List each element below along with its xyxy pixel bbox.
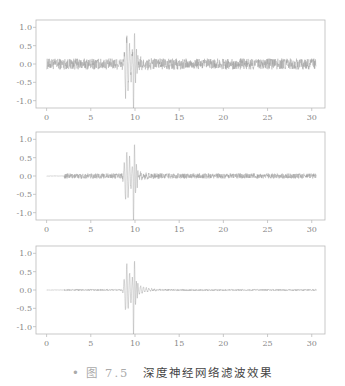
y-tick-label: 1.0 <box>19 135 32 144</box>
figure-number: 图 7.5 <box>86 366 129 380</box>
y-tick-label: 0.0 <box>19 60 32 69</box>
subplot-b: 1.00.50.0-0.5-1.0051015202530b) <box>0 112 345 234</box>
y-tick-label: -1.0 <box>17 209 32 218</box>
waveform-line <box>47 261 317 334</box>
x-tick-label: 25 <box>262 339 272 348</box>
subplot-c: 1.00.50.0-0.5-1.0051015202530c) <box>0 226 345 348</box>
figure-caption: • 图 7.5 深度神经网络滤波效果 <box>0 364 345 380</box>
x-tick-label: 15 <box>174 339 184 348</box>
waveform-line <box>47 145 317 220</box>
x-tick-label: 10 <box>130 339 140 348</box>
y-tick-label: -0.5 <box>17 190 32 199</box>
y-tick-label: 0.5 <box>19 154 32 163</box>
y-tick-label: -0.5 <box>17 304 32 313</box>
subplot-a: 1.00.50.0-0.5-1.0051015202530a) <box>0 0 345 122</box>
y-tick-label: -1.0 <box>17 323 32 332</box>
y-tick-label: 0.5 <box>19 268 32 277</box>
y-tick-label: 0.0 <box>19 286 32 295</box>
caption-bullet: • <box>72 366 81 380</box>
y-tick-label: 0.0 <box>19 172 32 181</box>
y-tick-label: -0.5 <box>17 78 32 87</box>
y-tick-label: 0.5 <box>19 42 32 51</box>
x-tick-label: 5 <box>88 339 93 348</box>
x-tick-label: 20 <box>218 339 228 348</box>
y-tick-label: 1.0 <box>19 249 32 258</box>
caption-text: 深度神经网络滤波效果 <box>143 366 273 380</box>
x-tick-label: 0 <box>44 339 49 348</box>
waveform-line <box>47 33 317 108</box>
y-tick-label: -1.0 <box>17 97 32 106</box>
x-tick-label: 30 <box>307 339 317 348</box>
y-tick-label: 1.0 <box>19 23 32 32</box>
